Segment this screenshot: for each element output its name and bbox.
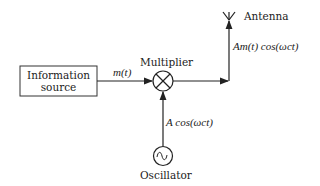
oscillator-label: Oscillator xyxy=(140,170,192,181)
carrier-signal-label: A cos(ωct) xyxy=(166,117,213,128)
multiplier-icon xyxy=(153,71,173,91)
antenna-label: Antenna xyxy=(244,11,289,22)
modulated-signal-label: Am(t) cos(ωct) xyxy=(233,41,299,52)
source-label-line2: source xyxy=(41,81,77,93)
multiplier-label: Multiplier xyxy=(140,57,193,68)
message-signal-label: m(t) xyxy=(113,67,131,78)
information-source-label: Information source xyxy=(20,66,97,96)
source-label-line1: Information xyxy=(27,69,90,81)
oscillator-icon xyxy=(154,147,173,166)
antenna-icon xyxy=(223,12,235,20)
